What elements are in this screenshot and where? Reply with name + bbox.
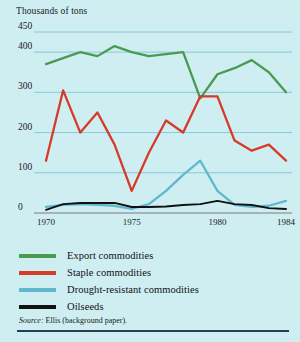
legend-item-label: Drought-resistant commodities bbox=[67, 284, 199, 295]
source-note: Source: Ellis (background paper). bbox=[19, 316, 127, 325]
y-tick-label: 200 bbox=[18, 122, 32, 132]
chart-plot-area: Thousands of tons 0100200300400450 19701… bbox=[0, 0, 300, 240]
legend-item[interactable]: Export commodities bbox=[19, 247, 291, 264]
legend-item-label: Export commodities bbox=[67, 250, 153, 261]
y-tick-label: 0 bbox=[18, 202, 23, 212]
legend-item[interactable]: Staple commodities bbox=[19, 264, 291, 281]
y-tick-label: 400 bbox=[18, 41, 32, 51]
legend-color-swatch bbox=[19, 288, 56, 292]
x-tick-label: 1980 bbox=[208, 217, 226, 227]
chart-legend: Export commoditiesStaple commoditiesDrou… bbox=[19, 247, 291, 315]
x-tick-label: 1970 bbox=[37, 217, 55, 227]
y-tick-label: 100 bbox=[18, 162, 32, 172]
y-tick-label: 300 bbox=[18, 81, 32, 91]
x-tick-label: 1984 bbox=[277, 217, 295, 227]
bottom-divider bbox=[17, 330, 289, 332]
legend-item-label: Staple commodities bbox=[67, 267, 151, 278]
figure-panel: Thousands of tons 0100200300400450 19701… bbox=[0, 0, 300, 342]
legend-color-swatch bbox=[19, 254, 56, 258]
legend-item[interactable]: Drought-resistant commodities bbox=[19, 281, 291, 298]
source-note-prefix: Source: bbox=[19, 316, 44, 325]
line-chart-svg bbox=[0, 0, 300, 240]
y-tick-label: 450 bbox=[18, 21, 32, 31]
x-tick-label: 1975 bbox=[123, 217, 141, 227]
legend-color-swatch bbox=[19, 271, 56, 275]
legend-item[interactable]: Oilseeds bbox=[19, 298, 291, 315]
legend-color-swatch bbox=[19, 305, 56, 309]
source-note-text: Ellis (background paper). bbox=[44, 316, 128, 325]
legend-item-label: Oilseeds bbox=[67, 301, 104, 312]
